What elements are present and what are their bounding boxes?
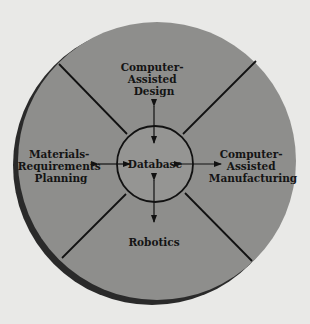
label-robotics: Robotics <box>128 236 179 248</box>
database-hub-diagram: Database Computer- Assisted Design Compu… <box>0 0 310 324</box>
label-database: Database <box>128 158 183 170</box>
